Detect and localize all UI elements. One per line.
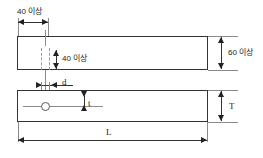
arrow-down-icon <box>218 63 224 69</box>
dimension-label-hole-diameter: d <box>62 78 67 87</box>
hidden-line-hole-right <box>49 48 50 70</box>
centerline-vertical-upper <box>45 30 46 46</box>
extension-line-thickness-bottom <box>208 122 238 123</box>
dimension-label-edge-distance-horizontal: 40 이상 <box>17 8 42 16</box>
arrow-down-icon <box>53 63 59 69</box>
extension-line-right <box>48 18 49 37</box>
arrow-up-icon <box>218 91 224 97</box>
arrow-up-icon <box>53 50 59 56</box>
dimension-label-plate-thickness: T <box>229 102 235 111</box>
engineering-drawing: 40 이상 40 이상 60 이상 d t T <box>0 0 263 158</box>
arrow-left-icon <box>18 19 24 25</box>
arrow-up-icon <box>218 37 224 43</box>
arrow-right-icon <box>201 137 207 143</box>
arrow-down-icon <box>218 115 224 121</box>
dimension-label-length: L <box>106 128 112 137</box>
centerline-horizontal <box>23 106 103 107</box>
arrow-up-icon <box>81 105 87 111</box>
arrow-left-icon <box>51 82 57 88</box>
extension-line-width-bottom <box>208 70 238 71</box>
dimension-label-edge-distance-vertical: 40 이상 <box>62 55 87 63</box>
arrow-down-icon <box>81 91 87 97</box>
extension-line-length-right <box>207 122 208 142</box>
dimension-label-width: 60 이상 <box>228 49 253 57</box>
hidden-line-hole-left <box>41 48 42 70</box>
hole-circle <box>41 102 50 111</box>
arrow-right-icon <box>42 19 48 25</box>
dimension-label-notch-thickness: t <box>88 99 91 108</box>
arrow-left-icon <box>18 137 24 143</box>
dimension-line-length <box>18 140 207 141</box>
